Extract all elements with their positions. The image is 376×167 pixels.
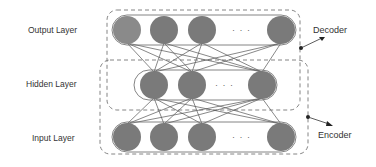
edge-output-4-to-hidden-1	[154, 43, 281, 72]
edge-output-3-to-hidden-3	[202, 43, 262, 72]
input-node-2	[150, 123, 178, 151]
neuron-nodes	[113, 16, 295, 151]
input-layer-ellipsis: · · ·	[232, 132, 251, 142]
edge-hidden-2-to-input-4	[192, 98, 281, 124]
output-node-4	[267, 16, 295, 44]
autoencoder-diagram: · · · · · · · · · Output Layer Hidden La…	[0, 0, 376, 167]
output-layer-label: Output Layer	[28, 25, 77, 35]
hidden-node-2	[178, 71, 206, 99]
input-node-1	[113, 123, 141, 151]
hidden-layer-label: Hidden Layer	[26, 79, 77, 89]
edge-output-1-to-hidden-2	[127, 43, 192, 72]
output-node-3	[188, 16, 216, 44]
edge-output-4-to-hidden-3	[262, 43, 281, 72]
edge-hidden-3-to-input-3	[202, 98, 262, 124]
decoder-pointer-line	[301, 38, 322, 48]
edge-hidden-2-to-input-1	[127, 98, 192, 124]
edge-hidden-3-to-input-4	[262, 98, 281, 124]
edge-hidden-1-to-input-1	[127, 98, 154, 124]
hidden-layer-ellipsis: · · ·	[215, 80, 234, 90]
encoder-pointer-line	[308, 117, 329, 124]
edge-hidden-1-to-input-4	[154, 98, 281, 124]
encoder-label: Encoder	[318, 130, 352, 140]
decoder-label: Decoder	[313, 25, 347, 35]
input-layer-label: Input Layer	[32, 133, 75, 143]
output-layer-ellipsis: · · ·	[232, 25, 251, 35]
edge-output-1-to-hidden-1	[127, 43, 154, 72]
output-node-2	[150, 16, 178, 44]
hidden-node-3	[248, 71, 276, 99]
input-node-3	[188, 123, 216, 151]
hidden-node-1	[140, 71, 168, 99]
edge-output-2-to-hidden-1	[154, 43, 164, 72]
edge-output-2-to-hidden-3	[164, 43, 262, 72]
output-node-1	[113, 16, 141, 44]
input-node-4	[267, 123, 295, 151]
edge-output-4-to-hidden-2	[192, 43, 281, 72]
encoder-arrowhead-icon	[326, 121, 333, 126]
